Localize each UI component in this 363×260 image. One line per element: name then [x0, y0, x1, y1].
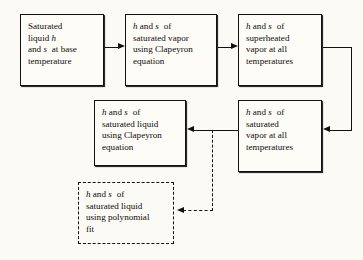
flow-diagram: Saturated liquid h and s at base tempera… [0, 0, 363, 260]
connector-superheated-right-stub [322, 47, 352, 48]
box-text-line: temperatures [246, 56, 321, 68]
arrowhead-base-to-vapor-clapeyron [118, 43, 125, 49]
box-text-line: h and s of [86, 189, 173, 201]
box-saturated-liquid-clapeyron: h and s of saturated liquid using Clapey… [94, 100, 186, 166]
box-text-line: using polynomial [86, 212, 173, 224]
box-text-line: liquid h [28, 33, 103, 45]
box-saturated-vapor-all: h and s of saturated vapor at all temper… [238, 100, 322, 172]
box-text-line: saturated liquid [102, 119, 185, 131]
box-text-line: h and s of [102, 107, 185, 119]
box-text-line: h and s of [246, 107, 321, 119]
box-text-line: using Clapeyron [133, 44, 216, 56]
connector-dashed-vertical-branch [212, 130, 213, 211]
box-text-line: and s at base [28, 44, 103, 56]
connector-vapor-clapeyron-to-superheated [218, 47, 232, 48]
box-text-line: using Clapeyron [102, 130, 185, 142]
box-text-line: saturated [246, 119, 321, 131]
connector-saturated-vapor-all-to-liquid-clapeyron [193, 130, 238, 131]
arrowhead-vapor-clapeyron-to-superheated [231, 43, 238, 49]
box-polynomial-fit: h and s of saturated liquid using polyno… [78, 182, 174, 244]
box-text-line: Saturated [28, 21, 103, 33]
box-saturated-vapor-clapeyron: h and s of saturated vapor using Clapeyr… [125, 14, 217, 86]
box-text-line: superheated [246, 33, 321, 45]
box-text-line: vapor at all [246, 44, 321, 56]
connector-superheated-vertical-drop [351, 47, 352, 131]
box-text-line: equation [102, 142, 185, 154]
box-text-line: h and s of [246, 21, 321, 33]
box-superheated-vapor: h and s of superheated vapor at all temp… [238, 14, 322, 86]
arrowhead-into-saturated-vapor-all [323, 126, 330, 132]
box-text-line: temperature [28, 56, 103, 68]
box-text-line: fit [86, 224, 173, 236]
connector-into-saturated-vapor-all [330, 130, 351, 131]
box-text-line: temperatures [246, 142, 321, 154]
box-text-line: vapor at all [246, 130, 321, 142]
box-text-line: h and s of [133, 21, 216, 33]
box-text-line: equation [133, 56, 216, 68]
box-saturated-liquid-base: Saturated liquid h and s at base tempera… [20, 14, 104, 86]
box-text-line: saturated liquid [86, 201, 173, 213]
connector-dashed-into-polynomial-fit [183, 210, 213, 211]
box-text-line: saturated vapor [133, 33, 216, 45]
connector-base-to-vapor-clapeyron [105, 47, 119, 48]
arrowhead-into-saturated-liquid-clapeyron [187, 126, 194, 132]
arrowhead-into-polynomial-fit [177, 207, 184, 213]
